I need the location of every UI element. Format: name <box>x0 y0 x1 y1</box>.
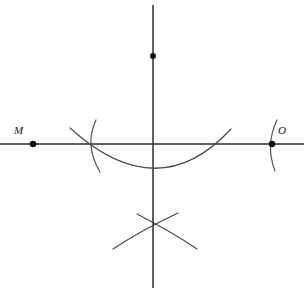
geometric-construction-figure: M O <box>0 0 304 292</box>
point-m-label: M <box>13 124 24 136</box>
point-o-dot <box>269 141 275 147</box>
point-o-label: O <box>278 124 286 136</box>
upper-vertical-point-dot <box>150 53 156 59</box>
figure-background <box>0 0 304 292</box>
construction-canvas: M O <box>0 0 304 292</box>
point-m-dot <box>30 141 36 147</box>
